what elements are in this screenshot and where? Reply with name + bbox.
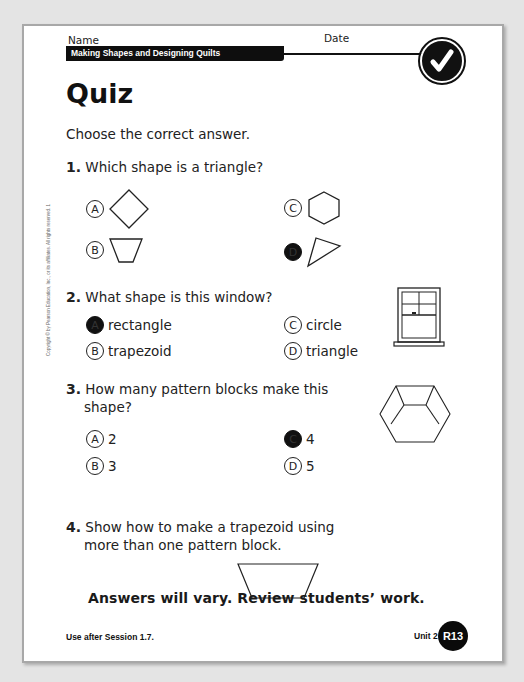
- q3-option-a[interactable]: A 2: [86, 430, 117, 448]
- option-label: trapezoid: [108, 343, 172, 359]
- unit-banner: Making Shapes and Designing Quilts: [66, 46, 284, 61]
- name-label: Name: [68, 34, 99, 46]
- triangle-icon: [306, 236, 342, 268]
- q1-option-b[interactable]: B: [86, 236, 144, 264]
- q1-option-a[interactable]: A: [86, 188, 150, 230]
- question-number: 4.: [66, 519, 81, 535]
- instructions: Choose the correct answer.: [66, 126, 250, 142]
- q1-option-c[interactable]: C: [284, 190, 342, 226]
- diamond-icon: [108, 188, 150, 230]
- q2-option-c[interactable]: C circle: [284, 316, 342, 334]
- worksheet-page: Name Date Making Shapes and Designing Qu…: [22, 24, 504, 663]
- answer-bubble-selected[interactable]: C: [284, 430, 302, 448]
- unit-label: Unit 2: [414, 631, 438, 641]
- session-note: Use after Session 1.7.: [66, 632, 154, 642]
- hexagon-icon: [306, 190, 342, 226]
- q3-option-b[interactable]: B 3: [86, 457, 117, 475]
- answer-bubble[interactable]: A: [86, 430, 104, 448]
- question-text: Show how to make a trapezoid using: [85, 519, 334, 535]
- option-label: 2: [108, 431, 117, 447]
- option-label: circle: [306, 317, 342, 333]
- question-text: How many pattern blocks make this: [85, 381, 328, 397]
- option-label: triangle: [306, 343, 358, 359]
- q3-option-d[interactable]: D 5: [284, 457, 315, 475]
- date-label: Date: [324, 32, 349, 44]
- question-2: 2. What shape is this window?: [66, 288, 273, 306]
- question-3: 3. How many pattern blocks make this sha…: [66, 380, 328, 416]
- q2-option-b[interactable]: B trapezoid: [86, 342, 172, 360]
- question-text-line2: more than one pattern block.: [66, 536, 334, 554]
- question-number: 2.: [66, 289, 81, 305]
- copyright-notice: Copyright © by Pearson Education, Inc., …: [46, 116, 56, 356]
- option-label: 3: [108, 458, 117, 474]
- question-number: 3.: [66, 381, 81, 397]
- question-text: What shape is this window?: [85, 289, 272, 305]
- option-label: rectangle: [108, 317, 172, 333]
- checkmark-badge: [420, 39, 464, 83]
- trapezoid-icon: [108, 236, 144, 264]
- option-label: 4: [306, 431, 315, 447]
- answer-bubble[interactable]: B: [86, 457, 104, 475]
- checkmark-icon: [429, 48, 455, 74]
- answer-bubble[interactable]: B: [86, 241, 104, 259]
- question-1: 1. Which shape is a triangle?: [66, 158, 263, 176]
- page-title: Quiz: [66, 78, 133, 109]
- q1-option-d[interactable]: D: [284, 236, 342, 268]
- q2-option-d[interactable]: D triangle: [284, 342, 358, 360]
- question-4: 4. Show how to make a trapezoid using mo…: [66, 518, 334, 554]
- answer-bubble-selected[interactable]: D: [284, 243, 302, 261]
- q2-option-a[interactable]: A rectangle: [86, 316, 172, 334]
- page-number-badge: R13: [438, 621, 468, 651]
- question-text: Which shape is a triangle?: [85, 159, 263, 175]
- hexagon-pattern-blocks: [378, 384, 452, 444]
- option-label: 5: [306, 458, 315, 474]
- answer-bubble[interactable]: A: [86, 200, 104, 218]
- q3-option-c[interactable]: C 4: [284, 430, 315, 448]
- question-number: 1.: [66, 159, 81, 175]
- window-illustration: [392, 286, 446, 350]
- answer-bubble-selected[interactable]: A: [86, 316, 104, 334]
- answer-note: Answers will vary. Review students’ work…: [88, 590, 425, 606]
- answer-bubble[interactable]: B: [86, 342, 104, 360]
- question-text-line2: shape?: [66, 398, 328, 416]
- answer-bubble[interactable]: D: [284, 457, 302, 475]
- answer-bubble[interactable]: C: [284, 316, 302, 334]
- answer-bubble[interactable]: C: [284, 199, 302, 217]
- answer-bubble[interactable]: D: [284, 342, 302, 360]
